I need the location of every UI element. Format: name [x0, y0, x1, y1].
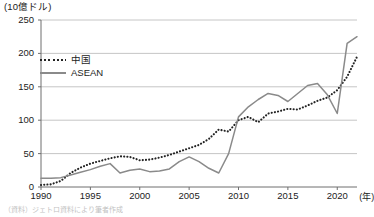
x-tick-1990: 1990 — [21, 191, 61, 201]
chart-legend: 中国 ASEAN — [40, 53, 132, 80]
y-tick-100: 100 — [4, 115, 34, 125]
x-tick-2005: 2005 — [169, 191, 209, 201]
x-axis-unit-label: (年) — [359, 192, 374, 202]
x-tick-2000: 2000 — [120, 191, 160, 201]
legend-label-asean: ASEAN — [71, 66, 103, 79]
x-tick-2015: 2015 — [268, 191, 308, 201]
y-tick-50: 50 — [4, 149, 34, 159]
legend-swatch-asean-icon — [40, 72, 66, 74]
legend-item-china: 中国 — [40, 53, 132, 66]
source-note: （資料）ジェトロ資料により筆者作成 — [4, 205, 123, 214]
x-tick-1995: 1995 — [70, 191, 110, 201]
legend-label-china: 中国 — [71, 53, 91, 66]
legend-item-asean: ASEAN — [40, 66, 132, 79]
y-tick-250: 250 — [4, 15, 34, 25]
legend-swatch-china-icon — [40, 59, 66, 61]
x-tick-2010: 2010 — [219, 191, 259, 201]
y-tick-150: 150 — [4, 82, 34, 92]
y-tick-200: 200 — [4, 48, 34, 58]
x-tick-2020: 2020 — [317, 191, 357, 201]
